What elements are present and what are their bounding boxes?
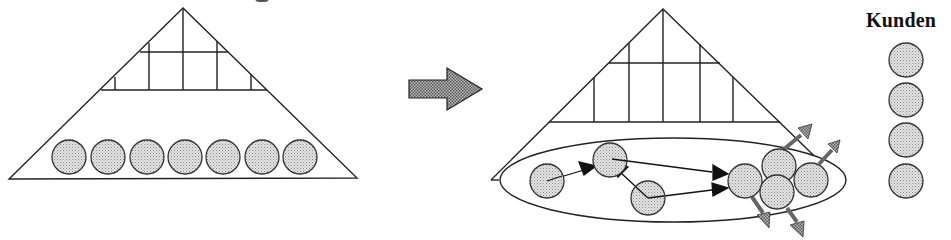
employee-circle: [91, 140, 125, 174]
employee-circle: [206, 140, 240, 174]
employee-circle-d: [728, 164, 762, 198]
employee-circle: [130, 140, 164, 174]
employee-circle: [52, 140, 86, 174]
customer-circle: [889, 43, 923, 77]
employee-circle: [168, 140, 202, 174]
customer-circle: [889, 164, 923, 198]
customer-circle: [889, 123, 923, 157]
employee-circle: [283, 140, 317, 174]
outgoing-arrow-icon: [819, 140, 840, 164]
customer-circle: [889, 83, 923, 117]
organization-diagram: [0, 0, 951, 240]
employee-circle-g: [794, 163, 828, 197]
employee-circle-f: [760, 175, 794, 209]
customers-label: Kunden: [866, 9, 936, 32]
diagram-stage: Kunden: [0, 0, 951, 240]
transition-arrow-icon: [409, 68, 482, 110]
outgoing-arrow-icon: [787, 208, 804, 237]
customer-circles: [889, 43, 923, 198]
employee-circle: [245, 140, 279, 174]
left-pyramid: [9, 8, 357, 179]
